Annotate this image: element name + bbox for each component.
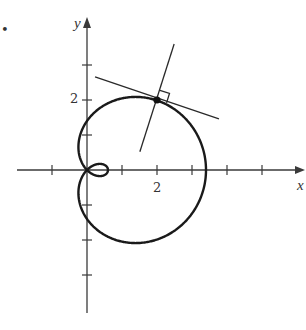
list-bullet: • — [1, 22, 9, 37]
y-tick-label-2: 2 — [70, 91, 78, 106]
y-axis-arrow-icon — [83, 17, 91, 28]
x-tick-label-2: 2 — [153, 180, 161, 195]
y-axis-label: y — [72, 15, 81, 31]
x-axis-arrow-icon — [295, 166, 305, 174]
polar-graph: • x y 2 2 — [0, 0, 306, 330]
x-axis-label: x — [296, 177, 304, 193]
point-of-tangency — [153, 96, 160, 103]
